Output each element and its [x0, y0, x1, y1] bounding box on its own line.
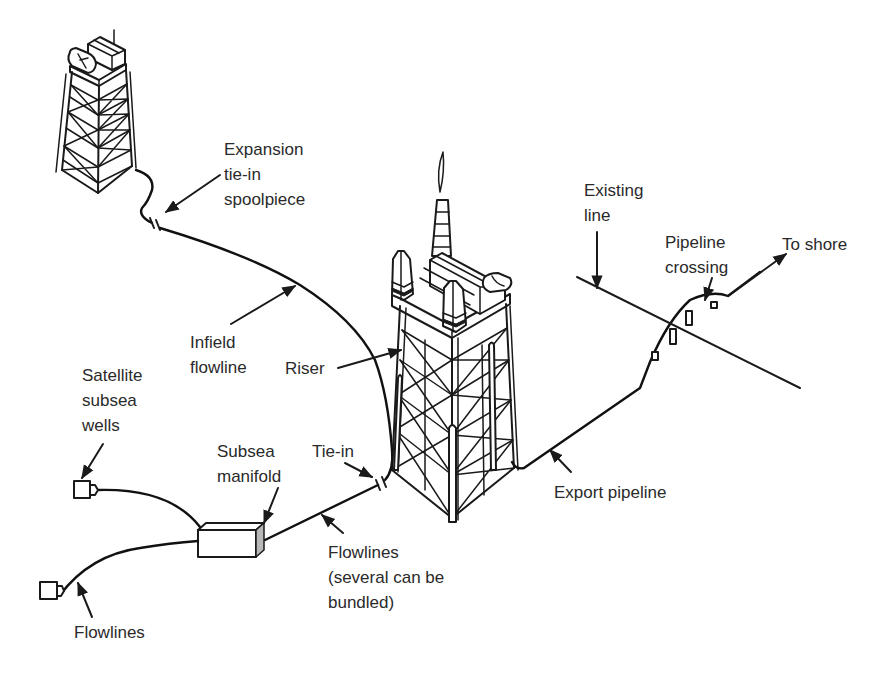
label-tie-in: Tie-in — [312, 439, 354, 464]
riser-arrow — [338, 350, 401, 368]
pipeline-system-diagram — [0, 0, 896, 677]
flowlines-bundled-arrow — [322, 515, 343, 533]
label-pipeline-crossing: Pipeline crossing — [665, 230, 728, 280]
subsea-manifold-icon — [198, 523, 264, 557]
remote-platform-icon — [56, 30, 136, 193]
label-riser: Riser — [285, 356, 325, 381]
to-shore-line — [728, 254, 786, 296]
label-subsea-manifold: Subsea manifold — [217, 439, 281, 489]
label-flowlines: Flowlines — [74, 620, 145, 645]
crossing-arrow — [705, 278, 712, 300]
label-flowlines-bundled: Flowlines (several can be bundled) — [328, 540, 444, 615]
tiein-arrow — [345, 463, 372, 477]
export-arrow — [550, 450, 571, 472]
label-infield-flowline: Infield flowline — [190, 330, 247, 380]
satellite-flowline-2 — [60, 541, 198, 595]
satellite-well-2-icon — [40, 582, 64, 599]
manifold-arrow — [264, 488, 278, 523]
satellite-arrow — [82, 444, 103, 478]
export-pipeline — [512, 272, 760, 468]
flowlines-arrow — [78, 583, 92, 617]
satellite-flowline-1 — [98, 490, 200, 527]
expansion-spoolpiece — [136, 170, 152, 223]
expansion-arrow — [166, 175, 220, 212]
label-satellite-subsea-wells: Satellite subsea wells — [82, 363, 142, 438]
main-platform-icon — [392, 152, 518, 522]
label-export-pipeline: Export pipeline — [554, 480, 666, 505]
label-existing-line: Existing line — [584, 178, 644, 228]
existing-line — [577, 277, 800, 388]
satellite-well-1-icon — [74, 481, 98, 498]
label-to-shore: To shore — [782, 232, 847, 257]
bundled-flowlines — [265, 485, 378, 540]
riser — [385, 450, 392, 480]
infield-arrow — [231, 286, 295, 324]
label-expansion-tie-in-spoolpiece: Expansion tie-in spoolpiece — [224, 137, 305, 212]
